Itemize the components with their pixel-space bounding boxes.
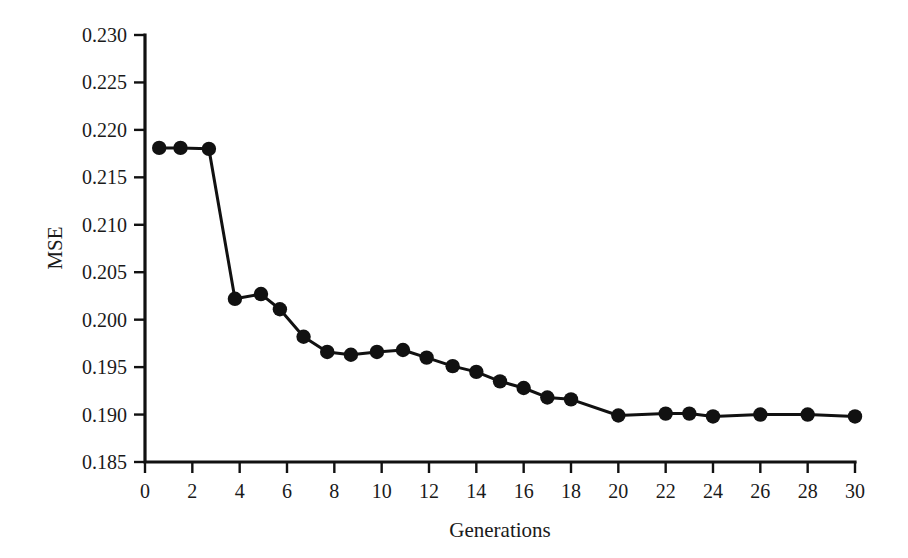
y-tick-label: 0.225 bbox=[82, 71, 127, 93]
y-tick-label: 0.215 bbox=[82, 166, 127, 188]
x-tick-label: 8 bbox=[329, 480, 339, 502]
chart-background bbox=[0, 0, 908, 558]
x-tick-label: 10 bbox=[372, 480, 392, 502]
x-tick-label: 0 bbox=[140, 480, 150, 502]
mse-vs-generations-line-chart: 0.1850.1900.1950.2000.2050.2100.2150.220… bbox=[0, 0, 908, 558]
x-axis-title: Generations bbox=[449, 518, 550, 542]
data-point-marker bbox=[273, 302, 287, 316]
x-tick-label: 26 bbox=[750, 480, 770, 502]
chart-figure: 0.1850.1900.1950.2000.2050.2100.2150.220… bbox=[0, 0, 908, 558]
data-point-marker bbox=[611, 408, 625, 422]
data-point-marker bbox=[658, 406, 672, 420]
data-point-marker bbox=[682, 406, 696, 420]
x-tick-label: 2 bbox=[187, 480, 197, 502]
x-tick-label: 30 bbox=[845, 480, 865, 502]
y-tick-label: 0.200 bbox=[82, 309, 127, 331]
data-point-marker bbox=[753, 407, 767, 421]
data-point-marker bbox=[396, 343, 410, 357]
data-point-marker bbox=[202, 142, 216, 156]
y-tick-label: 0.195 bbox=[82, 356, 127, 378]
data-point-marker bbox=[800, 407, 814, 421]
x-tick-label: 6 bbox=[282, 480, 292, 502]
x-tick-label: 14 bbox=[466, 480, 486, 502]
data-point-marker bbox=[564, 392, 578, 406]
y-tick-label: 0.220 bbox=[82, 119, 127, 141]
y-tick-label: 0.185 bbox=[82, 451, 127, 473]
data-point-marker bbox=[344, 348, 358, 362]
y-tick-label: 0.205 bbox=[82, 261, 127, 283]
y-tick-label: 0.190 bbox=[82, 404, 127, 426]
data-point-marker bbox=[445, 359, 459, 373]
data-point-marker bbox=[516, 381, 530, 395]
data-point-marker bbox=[540, 390, 554, 404]
x-tick-label: 24 bbox=[703, 480, 723, 502]
x-tick-label: 12 bbox=[419, 480, 439, 502]
data-point-marker bbox=[173, 141, 187, 155]
x-tick-label: 22 bbox=[656, 480, 676, 502]
data-point-marker bbox=[493, 374, 507, 388]
data-point-marker bbox=[706, 409, 720, 423]
y-tick-label: 0.230 bbox=[82, 24, 127, 46]
data-point-marker bbox=[320, 345, 334, 359]
data-point-marker bbox=[419, 350, 433, 364]
data-point-marker bbox=[254, 287, 268, 301]
x-tick-label: 4 bbox=[235, 480, 245, 502]
data-point-marker bbox=[228, 292, 242, 306]
data-point-marker bbox=[152, 141, 166, 155]
data-point-marker bbox=[370, 345, 384, 359]
x-tick-label: 20 bbox=[608, 480, 628, 502]
x-tick-label: 28 bbox=[798, 480, 818, 502]
x-tick-label: 16 bbox=[514, 480, 534, 502]
data-point-marker bbox=[296, 330, 310, 344]
x-tick-label: 18 bbox=[561, 480, 581, 502]
y-tick-label: 0.210 bbox=[82, 214, 127, 236]
data-point-marker bbox=[848, 409, 862, 423]
y-axis-title: MSE bbox=[43, 226, 67, 269]
data-point-marker bbox=[469, 365, 483, 379]
